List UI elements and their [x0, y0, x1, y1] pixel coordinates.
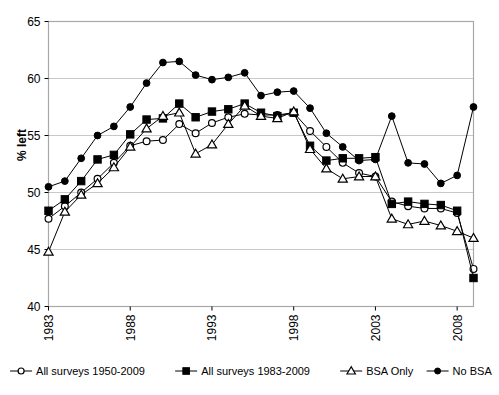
svg-text:65: 65: [27, 15, 41, 29]
legend-label: No BSA: [453, 365, 493, 377]
data-point: [307, 128, 314, 135]
data-point: [94, 156, 101, 163]
data-point: [127, 104, 134, 111]
data-point: [258, 92, 265, 99]
data-point: [143, 116, 150, 123]
svg-text:1983: 1983: [42, 314, 56, 341]
data-point: [274, 89, 281, 96]
data-point: [241, 110, 248, 117]
data-point: [437, 201, 444, 208]
line-chart: 404550556065 198319881993199820032008 Al…: [0, 0, 499, 395]
legend-marker: [435, 368, 441, 374]
data-point: [470, 274, 477, 281]
data-point: [61, 178, 68, 185]
data-point: [45, 215, 52, 222]
svg-text:1998: 1998: [287, 314, 301, 341]
data-point: [160, 137, 167, 144]
data-point: [388, 113, 395, 120]
data-point: [176, 58, 183, 65]
data-point: [241, 69, 248, 76]
data-point: [356, 157, 363, 164]
svg-text:50: 50: [27, 186, 41, 200]
data-point: [176, 121, 183, 128]
data-point: [470, 104, 477, 111]
svg-text:1988: 1988: [124, 314, 138, 341]
data-point: [307, 105, 314, 112]
data-point: [61, 196, 68, 203]
data-point: [454, 172, 461, 179]
data-point: [405, 159, 412, 166]
data-point: [45, 183, 52, 190]
data-point: [110, 123, 117, 130]
data-point: [323, 144, 330, 151]
data-point: [339, 155, 346, 162]
data-point: [192, 114, 199, 121]
data-point: [208, 108, 215, 115]
y-axis-title: % left: [15, 105, 29, 185]
legend-label: BSA Only: [366, 365, 414, 377]
data-point: [77, 177, 84, 184]
data-point: [45, 207, 52, 214]
data-point: [372, 156, 379, 163]
data-point: [290, 88, 297, 95]
chart-container: 404550556065 198319881993199820032008 Al…: [0, 0, 499, 395]
data-point: [143, 138, 150, 145]
data-point: [160, 59, 167, 66]
legend-label: All surveys 1983-2009: [201, 365, 310, 377]
data-point: [209, 76, 216, 83]
svg-text:1993: 1993: [205, 314, 219, 341]
data-point: [388, 200, 395, 207]
data-point: [192, 72, 199, 79]
data-point: [323, 130, 330, 137]
legend-marker: [183, 368, 190, 375]
data-point: [225, 74, 232, 81]
data-point: [110, 151, 117, 158]
data-point: [421, 200, 428, 207]
data-point: [421, 161, 428, 168]
data-point: [143, 80, 150, 87]
data-point: [225, 106, 232, 113]
svg-text:55: 55: [27, 129, 41, 143]
svg-text:45: 45: [27, 243, 41, 257]
data-point: [192, 130, 199, 137]
legend-label: All surveys 1950-2009: [36, 365, 145, 377]
svg-text:40: 40: [27, 300, 41, 314]
legend-marker: [18, 368, 24, 374]
data-point: [127, 131, 134, 138]
svg-text:2003: 2003: [369, 314, 383, 341]
data-point: [453, 207, 460, 214]
svg-text:2008: 2008: [451, 314, 465, 341]
data-point: [78, 155, 85, 162]
data-point: [209, 120, 216, 127]
data-point: [437, 180, 444, 187]
data-point: [176, 100, 183, 107]
data-point: [94, 132, 101, 139]
svg-text:60: 60: [27, 72, 41, 86]
data-point: [404, 198, 411, 205]
data-point: [339, 144, 346, 151]
